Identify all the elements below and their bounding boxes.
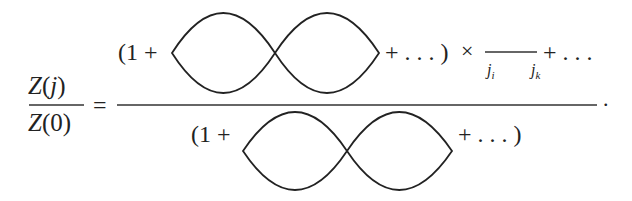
times-sign: ×: [461, 40, 473, 62]
numerator-trailing: + . . .: [543, 40, 593, 64]
denominator-figure-eight-diagram: [243, 112, 452, 190]
loop-left-icon: [172, 13, 275, 93]
numerator-tail: + . . . ): [385, 40, 449, 64]
denominator-open: (1 +: [191, 122, 231, 146]
lhs-numerator-arg: (j): [42, 72, 66, 99]
label-j-i: ji: [487, 62, 495, 81]
lhs-denominator: Z(0): [28, 110, 71, 135]
numerator-figure-eight-diagram: [172, 13, 379, 93]
lhs-denominator-arg: (0): [42, 109, 71, 136]
script-z: Z: [28, 109, 42, 136]
denominator-tail: + . . . ): [458, 122, 522, 146]
loop-left-icon: [243, 112, 347, 190]
equals-sign: =: [93, 93, 107, 117]
loop-right-icon: [347, 112, 452, 190]
label-j-k: jk: [531, 62, 540, 81]
terminating-period: .: [603, 88, 609, 110]
script-z: Z: [28, 72, 42, 99]
loop-right-icon: [275, 13, 379, 93]
lhs-numerator: Z(j): [28, 73, 66, 98]
numerator-open: (1 +: [118, 40, 158, 64]
